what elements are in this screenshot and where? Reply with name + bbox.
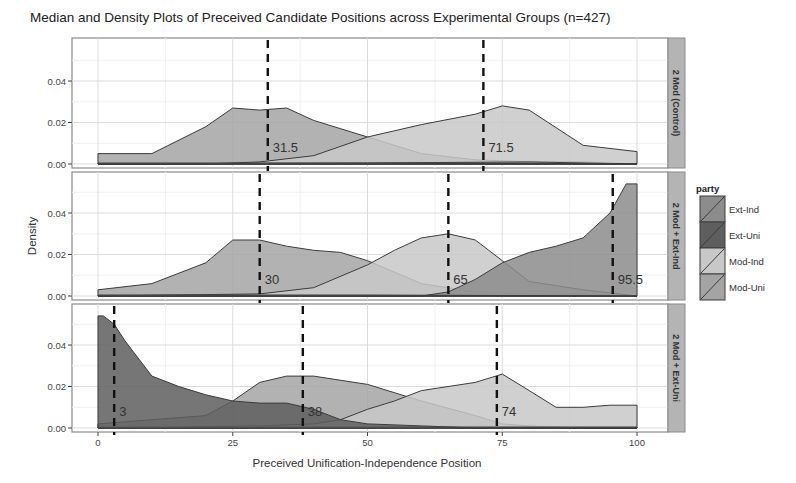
median-label: 38 [308, 404, 322, 419]
facet-panel: 0.000.020.04338742 Mod + Ext-Uni [48, 304, 686, 435]
median-label: 95.5 [618, 272, 643, 287]
facet-panels: 0.000.020.0431.571.52 Mod (Control)0.000… [48, 38, 686, 435]
legend-item: Ext-Uni [700, 222, 760, 248]
median-label: 31.5 [273, 140, 298, 155]
y-tick-label: 0.02 [48, 117, 67, 128]
median-label: 71.5 [488, 140, 513, 155]
x-axis: 0255075100 [95, 432, 645, 448]
legend-item: Mod-Uni [700, 274, 765, 300]
facet-strip-label: 2 Mod + Ext-Ind [671, 203, 681, 270]
legend-label: Mod-Uni [729, 282, 765, 293]
median-label: 74 [502, 404, 516, 419]
x-tick-label: 25 [227, 437, 238, 448]
legend-label: Ext-Uni [729, 230, 760, 241]
x-tick-label: 100 [629, 437, 645, 448]
legend-title: party [696, 183, 720, 194]
y-tick-label: 0.00 [48, 423, 67, 434]
y-tick-label: 0.04 [48, 76, 67, 87]
y-tick-label: 0.00 [48, 159, 67, 170]
y-tick-label: 0.04 [48, 340, 67, 351]
y-tick-label: 0.02 [48, 249, 67, 260]
faceted-density-chart: 0.000.020.0431.571.52 Mod (Control)0.000… [0, 0, 796, 483]
x-tick-label: 75 [497, 437, 508, 448]
facet-strip-label: 2 Mod (Control) [671, 70, 681, 137]
legend: party Ext-IndExt-UniMod-IndMod-Uni [696, 183, 765, 300]
median-label: 30 [265, 272, 279, 287]
median-label: 65 [453, 272, 467, 287]
x-axis-title: Preceived Unification-Independence Posit… [253, 457, 482, 469]
median-label: 3 [119, 404, 126, 419]
y-axis-title: Density [26, 217, 38, 256]
y-tick-label: 0.04 [48, 208, 67, 219]
legend-item: Mod-Ind [700, 248, 764, 274]
legend-item: Ext-Ind [700, 196, 759, 222]
y-tick-label: 0.02 [48, 381, 67, 392]
legend-label: Ext-Ind [729, 204, 759, 215]
x-tick-label: 0 [95, 437, 100, 448]
facet-panel: 0.000.020.04306595.52 Mod + Ext-Ind [48, 172, 686, 303]
x-tick-label: 50 [362, 437, 373, 448]
y-tick-label: 0.00 [48, 291, 67, 302]
facet-panel: 0.000.020.0431.571.52 Mod (Control) [48, 38, 686, 171]
legend-label: Mod-Ind [729, 256, 764, 267]
facet-strip-label: 2 Mod + Ext-Uni [671, 334, 681, 402]
